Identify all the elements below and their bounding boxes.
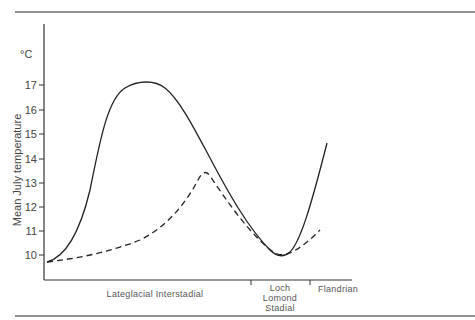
y-tick-12: 12: [25, 201, 37, 213]
y-tick-14: 14: [25, 153, 37, 165]
period-flandrian: Flandrian: [318, 284, 358, 294]
period-loch-lomond-line1: Loch: [270, 283, 291, 293]
y-ticks: [39, 85, 44, 255]
y-tick-10: 10: [25, 249, 37, 261]
y-tick-17: 17: [25, 79, 37, 91]
y-tick-15: 15: [25, 128, 37, 140]
y-unit-label: °C: [20, 48, 32, 60]
period-loch-lomond-line2: Lomond: [263, 293, 297, 303]
solid-temperature-curve: [47, 82, 327, 262]
y-axis-title: Mean July temperature: [11, 114, 23, 227]
y-tick-16: 16: [25, 104, 37, 116]
period-loch-lomond-line3: Stadial: [265, 303, 295, 313]
y-tick-11: 11: [26, 225, 37, 237]
chart: 17 16 15 14 13 12 11 10 °C Mean July tem…: [0, 0, 475, 320]
period-lateglacial-interstadial: Lateglacial Interstadial: [107, 289, 204, 299]
y-tick-13: 13: [25, 177, 37, 189]
dashed-temperature-curve: [47, 173, 320, 262]
